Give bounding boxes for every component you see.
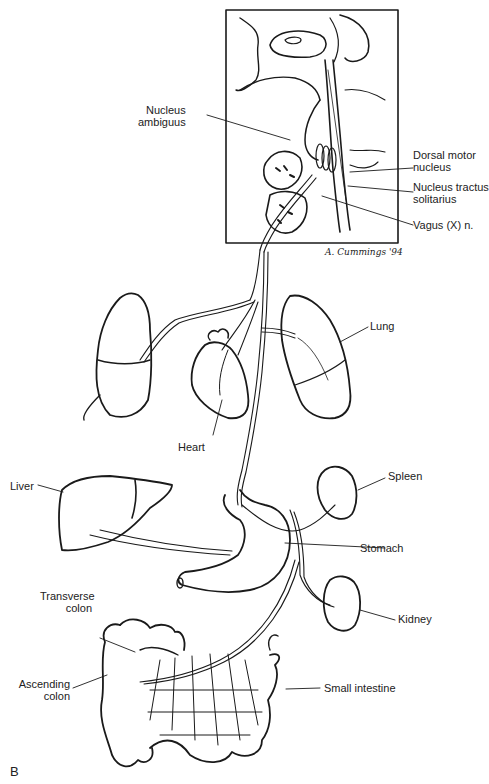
label-line: Dorsal motor (413, 149, 476, 161)
left-lung (84, 294, 152, 420)
vagus-nerve-illustration: Nucleus ambiguus Dorsal motor nucleus Nu… (0, 0, 489, 784)
label-liver: Liver (10, 480, 34, 492)
label-line: nucleus (413, 161, 476, 173)
artist-signature: A. Cummings '94 (325, 247, 403, 257)
label-line: Nucleus tractus (413, 181, 489, 193)
label-ascending-colon: Ascending colon (18, 678, 70, 702)
intestines (101, 619, 279, 766)
brainstem-inset (226, 10, 398, 252)
stomach (177, 490, 290, 592)
heart (192, 329, 249, 418)
label-line: colon (40, 602, 92, 614)
right-lung (281, 296, 350, 419)
label-line: Ascending (18, 678, 70, 690)
label-nucleus-ambiguus: Nucleus ambiguus (138, 104, 186, 128)
abdominal-branches (140, 505, 335, 684)
label-kidney: Kidney (398, 613, 432, 625)
label-small-intestine: Small intestine (324, 682, 396, 694)
label-line: Nucleus (138, 104, 186, 116)
label-heart: Heart (178, 441, 205, 453)
label-line: ambiguus (138, 116, 186, 128)
spleen (318, 467, 357, 519)
label-nucleus-tractus-solitarius: Nucleus tractus solitarius (413, 181, 489, 205)
label-lung: Lung (370, 320, 394, 332)
label-vagus-nerve: Vagus (X) n. (413, 219, 473, 231)
panel-letter: B (10, 764, 19, 779)
label-stomach: Stomach (360, 542, 403, 554)
liver (59, 476, 232, 555)
vagus-trunks (140, 250, 295, 507)
anatomy-drawing (0, 0, 489, 784)
label-line: Transverse (40, 590, 92, 602)
label-transverse-colon: Transverse colon (40, 590, 92, 614)
label-dorsal-motor-nucleus: Dorsal motor nucleus (413, 149, 476, 173)
label-spleen: Spleen (388, 470, 422, 482)
label-line: solitarius (413, 193, 489, 205)
label-line: colon (18, 690, 70, 702)
kidney (324, 576, 360, 630)
